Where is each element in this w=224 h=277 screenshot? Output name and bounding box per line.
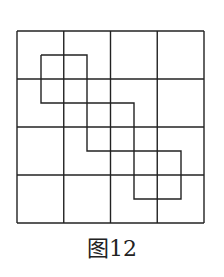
outer-grid: [17, 31, 204, 223]
grid-figure: [0, 0, 224, 230]
figure-caption: 图12: [0, 236, 224, 262]
